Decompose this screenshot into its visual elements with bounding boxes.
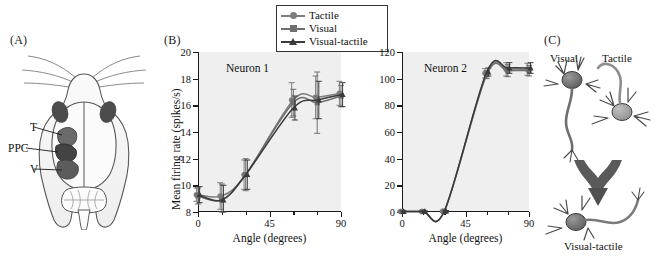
x-tick-label: 45 xyxy=(264,218,275,229)
series-visual-tactile xyxy=(401,60,534,221)
series-curve xyxy=(198,95,341,201)
y-tick-label: 16 xyxy=(181,100,192,111)
series-curve xyxy=(198,93,341,197)
convergence-arrow-icon xyxy=(574,160,622,206)
region-T-shape xyxy=(58,128,77,147)
x-axis-title: Angle (degrees) xyxy=(198,232,341,244)
chart-neuron-1: (B) Mean firing rate (spikes/s) 81012141… xyxy=(158,0,358,262)
series-curve xyxy=(198,96,341,201)
y-tick-label: 40 xyxy=(385,153,396,164)
x-minor-tick xyxy=(508,212,509,215)
panel-a-label: (A) xyxy=(10,33,27,48)
figure-root: (A) xyxy=(0,0,658,262)
panel-a: (A) xyxy=(0,0,158,262)
y-tick-label: 100 xyxy=(379,73,395,84)
series-layer-neuron-2 xyxy=(402,52,529,212)
x-minor-tick xyxy=(317,212,318,215)
neuron-tactile-icon xyxy=(592,64,650,126)
x-tick-label: 90 xyxy=(336,218,347,229)
series-curve xyxy=(402,60,529,221)
chart-title-neuron-1: Neuron 1 xyxy=(226,62,269,74)
x-tick xyxy=(529,212,530,217)
x-tick-label: 90 xyxy=(524,218,535,229)
region-PPC-shape xyxy=(55,144,76,162)
series-visual xyxy=(195,72,344,212)
y-tick-label: 14 xyxy=(181,127,192,138)
chart-title-neuron-2: Neuron 2 xyxy=(424,62,467,74)
y-tick-label: 20 xyxy=(181,47,192,58)
y-tick-label: 18 xyxy=(181,73,192,84)
brainstem-outline xyxy=(78,210,90,230)
panel-c-neuron-diagram xyxy=(536,0,658,262)
x-tick xyxy=(198,212,199,217)
plot-area-neuron-2: 02040608010012004590 xyxy=(402,52,529,212)
x-tick xyxy=(466,212,467,217)
y-tick-label: 20 xyxy=(385,180,396,191)
panel-c: (C) Visual Tactile Visual-tactile xyxy=(536,0,658,262)
chart-neuron-2: 02040608010012004590 Neuron 2 Angle (deg… xyxy=(358,0,536,262)
x-tick-label: 0 xyxy=(195,218,200,229)
region-label-PPC: PPC xyxy=(8,142,28,154)
series-tactile xyxy=(397,62,530,222)
y-tick-label: 10 xyxy=(181,180,192,191)
x-tick xyxy=(341,212,342,217)
x-tick-label: 0 xyxy=(399,218,404,229)
panel-b-label: (B) xyxy=(164,33,181,48)
x-minor-tick xyxy=(293,212,294,215)
y-tick-label: 60 xyxy=(385,127,396,138)
series-layer-neuron-1 xyxy=(198,52,341,212)
y-tick-label: 120 xyxy=(379,47,395,58)
region-label-T: T xyxy=(30,121,37,133)
region-label-V: V xyxy=(30,163,38,175)
plot-area-neuron-1: 810121416182004590 xyxy=(198,52,341,212)
x-tick xyxy=(270,212,271,217)
x-axis-title: Angle (degrees) xyxy=(402,232,529,244)
y-tick-label: 80 xyxy=(385,100,396,111)
y-tick-label: 8 xyxy=(186,207,191,218)
x-minor-tick xyxy=(487,212,488,215)
rat-brain-diagram xyxy=(14,50,154,230)
y-tick-label: 12 xyxy=(181,153,192,164)
x-tick-label: 45 xyxy=(460,218,471,229)
x-minor-tick xyxy=(246,212,247,215)
neuron-visual-icon xyxy=(544,56,600,162)
y-tick-label: 0 xyxy=(390,207,395,218)
